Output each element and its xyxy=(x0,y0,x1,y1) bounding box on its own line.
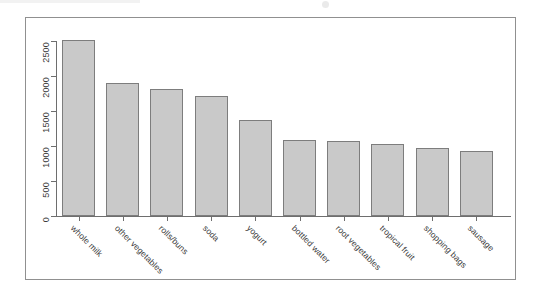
x-axis-tick xyxy=(123,217,124,221)
bar-chart: item frequency (absolute) 05001000150020… xyxy=(0,0,538,296)
bars-layer: whole milkother vegetablesrolls/bunssoda… xyxy=(0,0,538,296)
bar xyxy=(239,120,272,216)
x-axis-tick-label: soda xyxy=(201,223,221,243)
x-axis-tick-label: tropical fruit xyxy=(378,223,417,262)
x-axis-tick xyxy=(432,217,433,221)
x-axis-tick-label: rolls/buns xyxy=(157,223,191,257)
x-axis-tick xyxy=(167,217,168,221)
x-axis-tick xyxy=(344,217,345,221)
bar xyxy=(327,141,360,216)
bar xyxy=(460,151,493,216)
x-axis-tick xyxy=(211,217,212,221)
x-axis-tick-label: root vegetables xyxy=(334,223,383,272)
bar xyxy=(62,40,95,216)
bar xyxy=(283,140,316,216)
x-axis-tick xyxy=(388,217,389,221)
x-axis-tick-label: sausage xyxy=(466,223,496,253)
x-axis-tick xyxy=(476,217,477,221)
bar xyxy=(106,83,139,216)
x-axis-tick xyxy=(255,217,256,221)
bar xyxy=(371,144,404,216)
x-axis-tick-label: whole milk xyxy=(68,223,104,259)
x-axis-tick xyxy=(300,217,301,221)
x-axis-tick-label: shopping bags xyxy=(422,223,469,270)
bar xyxy=(195,96,228,216)
x-axis-tick-label: yogurt xyxy=(245,223,269,247)
x-axis-tick xyxy=(79,217,80,221)
bar xyxy=(150,89,183,216)
bar xyxy=(416,148,449,216)
x-axis-tick-label: bottled water xyxy=(289,223,331,265)
